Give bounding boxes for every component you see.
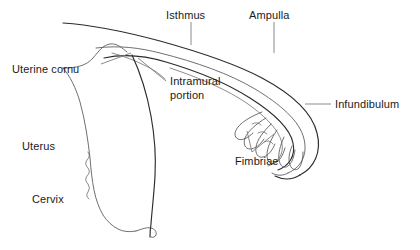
leader-uterine-cornu bbox=[101, 53, 131, 64]
label-intramural-portion-line2: portion bbox=[170, 89, 204, 102]
label-uterine-cornu: Uterine cornu bbox=[12, 63, 79, 76]
label-uterus: Uterus bbox=[22, 140, 55, 153]
cervix-external-os bbox=[136, 228, 156, 238]
tube-inner-inferior-wall bbox=[104, 55, 294, 170]
label-fimbriae: Fimbriae bbox=[235, 155, 279, 168]
infundibulum-inner-wall bbox=[272, 173, 288, 175]
anatomy-illustration bbox=[0, 0, 420, 250]
label-ampulla: Ampulla bbox=[249, 9, 289, 22]
label-isthmus: Isthmus bbox=[166, 9, 205, 22]
uterus-left-outline bbox=[63, 68, 136, 232]
leader-intramural-portion bbox=[138, 58, 166, 81]
label-intramural-portion-line1: Intramural bbox=[170, 75, 221, 88]
label-infundibulum: Infundibulum bbox=[335, 98, 399, 111]
leader-fimbriae bbox=[252, 134, 274, 152]
anatomy-diagram: Isthmus Ampulla Uterine cornu Intramural… bbox=[0, 0, 420, 250]
cervix-canal-texture bbox=[86, 152, 90, 199]
label-cervix: Cervix bbox=[32, 193, 64, 206]
uterus-right-outline bbox=[132, 55, 155, 237]
